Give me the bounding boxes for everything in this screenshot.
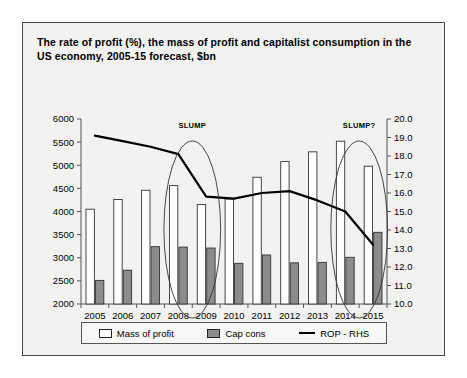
- chart-svg: 20002500300035004000450050005500600010.0…: [23, 23, 446, 357]
- x-axis-tick-label: 2006: [112, 310, 133, 321]
- plot-area: 20002500300035004000450050005500600010.0…: [23, 23, 446, 357]
- bar-cap-cons-2011: [262, 255, 270, 304]
- gray-box-swatch-icon: [207, 329, 220, 338]
- bar-mass-of-profit-2013: [309, 152, 317, 304]
- annotation-label-2: SLUMP?: [343, 121, 376, 130]
- x-axis-tick-label: 2013: [307, 310, 328, 321]
- x-axis-tick-label: 2011: [252, 310, 272, 321]
- legend-item-rop-rhs: ROP - RHS: [299, 328, 369, 339]
- left-axis-tick-label: 6000: [53, 113, 74, 124]
- bar-mass-of-profit-2006: [114, 199, 122, 304]
- legend-label-mass-of-profit: Mass of profit: [117, 328, 174, 339]
- bar-cap-cons-2006: [123, 270, 131, 304]
- x-axis-tick-label: 2007: [140, 310, 161, 321]
- right-axis-tick-label: 19.0: [394, 132, 413, 143]
- bar-cap-cons-2007: [151, 247, 159, 304]
- left-axis-tick-label: 4000: [53, 206, 74, 217]
- right-axis-tick-label: 20.0: [394, 113, 413, 124]
- right-axis-tick-label: 15.0: [394, 206, 413, 217]
- chart-legend: Mass of profit Cap cons ROP - RHS: [81, 322, 387, 344]
- legend-item-cap-cons: Cap cons: [207, 328, 265, 339]
- legend-item-mass-of-profit: Mass of profit: [99, 328, 174, 339]
- left-axis-tick-label: 5000: [53, 160, 74, 171]
- bar-cap-cons-2013: [318, 262, 326, 304]
- right-axis-tick-label: 16.0: [394, 187, 413, 198]
- bar-cap-cons-2010: [235, 263, 243, 304]
- bar-cap-cons-2008: [179, 247, 187, 304]
- white-box-swatch-icon: [99, 329, 112, 338]
- bar-mass-of-profit-2014: [336, 141, 344, 304]
- right-axis-tick-label: 11.0: [394, 280, 412, 291]
- left-axis-tick-label: 5500: [53, 137, 74, 148]
- left-axis-tick-label: 3000: [53, 252, 74, 263]
- bar-cap-cons-2015: [374, 232, 382, 304]
- left-axis-tick-label: 3500: [53, 229, 74, 240]
- left-axis-tick-label: 2000: [53, 298, 74, 309]
- annotation-label-1: SLUMP: [178, 121, 206, 130]
- bar-mass-of-profit-2012: [281, 162, 289, 304]
- bar-mass-of-profit-2007: [142, 190, 150, 304]
- x-axis-tick-label: 2005: [84, 310, 105, 321]
- left-axis-tick-label: 2500: [53, 275, 74, 286]
- right-axis-tick-label: 10.0: [394, 298, 413, 309]
- bar-mass-of-profit-2009: [197, 205, 205, 304]
- bar-mass-of-profit-2011: [253, 177, 261, 304]
- right-axis-tick-label: 18.0: [394, 150, 413, 161]
- left-axis-tick-label: 4500: [53, 183, 74, 194]
- bar-cap-cons-2012: [290, 263, 298, 304]
- x-axis-tick-label: 2012: [279, 310, 300, 321]
- bar-cap-cons-2005: [95, 280, 103, 304]
- bar-mass-of-profit-2010: [225, 199, 233, 304]
- chart-figure: The rate of profit (%), the mass of prof…: [22, 22, 445, 356]
- legend-label-cap-cons: Cap cons: [225, 328, 265, 339]
- x-axis-tick-label: 2010: [223, 310, 244, 321]
- right-axis-tick-label: 13.0: [394, 243, 413, 254]
- legend-label-rop-rhs: ROP - RHS: [320, 328, 369, 339]
- black-line-swatch-icon: [299, 332, 315, 334]
- bar-cap-cons-2014: [346, 257, 354, 304]
- right-axis-tick-label: 17.0: [394, 169, 413, 180]
- right-axis-tick-label: 14.0: [394, 224, 413, 235]
- bar-mass-of-profit-2005: [86, 209, 94, 304]
- right-axis-tick-label: 12.0: [394, 261, 413, 272]
